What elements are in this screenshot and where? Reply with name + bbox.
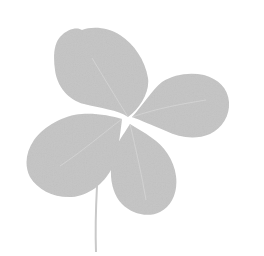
- leaf-bottom-right: [111, 124, 176, 215]
- clover-illustration: [0, 0, 264, 256]
- stem: [96, 186, 97, 252]
- clover-photo: Grayscale photograph of a four-leaf clov…: [0, 0, 264, 256]
